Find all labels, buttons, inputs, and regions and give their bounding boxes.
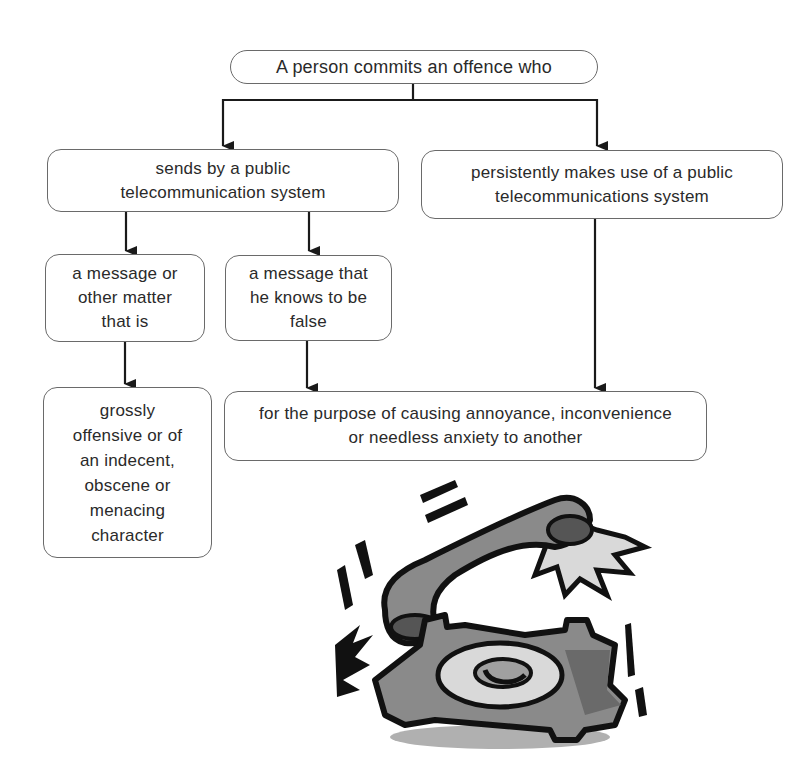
offensive-character-node: grossly offensive or of an indecent, obs… <box>43 387 212 558</box>
persistent-use-node: persistently makes use of a public telec… <box>421 150 783 219</box>
purpose-node-label: for the purpose of causing annoyance, in… <box>259 402 672 450</box>
sends-node-label: sends by a public telecommunication syst… <box>120 157 325 205</box>
purpose-node: for the purpose of causing annoyance, in… <box>224 391 707 461</box>
root-node: A person commits an offence who <box>230 50 598 84</box>
false-message-node-label: a message that he knows to be false <box>249 262 368 334</box>
message-matter-node-label: a message or other matter that is <box>72 262 177 334</box>
offensive-character-node-label: grossly offensive or of an indecent, obs… <box>73 398 182 548</box>
false-message-node: a message that he knows to be false <box>225 255 392 341</box>
root-node-label: A person commits an offence who <box>276 55 552 79</box>
message-matter-node: a message or other matter that is <box>45 254 205 342</box>
ringing-telephone-icon <box>325 475 665 765</box>
persistent-use-node-label: persistently makes use of a public telec… <box>471 161 733 209</box>
sends-node: sends by a public telecommunication syst… <box>47 149 399 212</box>
